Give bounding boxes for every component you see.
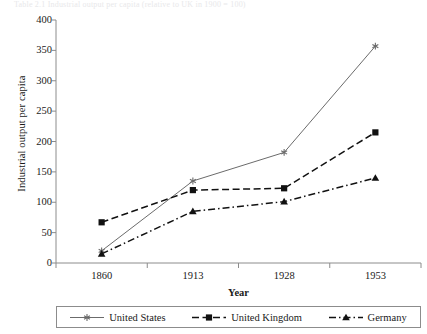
legend-label: Germany: [368, 312, 407, 323]
y-tick-label: 200: [8, 137, 52, 148]
chart-legend: United StatesUnited KingdomGermany: [56, 306, 421, 328]
y-tick-label: 150: [8, 167, 52, 178]
data-point-marker: [206, 314, 212, 320]
data-point-marker: [372, 174, 380, 181]
data-point-marker: [283, 151, 285, 153]
x-tick-label: 1953: [335, 270, 415, 281]
legend-key-triangle-icon: [329, 312, 363, 323]
series-1: [99, 43, 379, 255]
data-point-marker: [190, 187, 196, 193]
series-line: [102, 46, 376, 251]
plot-area: [0, 0, 427, 334]
y-tick-label: 50: [8, 228, 52, 239]
y-tick-label: 400: [8, 15, 52, 26]
y-tick-label: 300: [8, 76, 52, 87]
series-2: [99, 129, 379, 225]
legend-label: United Kingdom: [231, 312, 302, 323]
legend-item-germany[interactable]: Germany: [329, 312, 407, 323]
x-tick-label: 1928: [244, 270, 324, 281]
data-point-marker: [99, 219, 105, 225]
data-point-marker: [374, 45, 376, 47]
legend-item-united-kingdom[interactable]: United Kingdom: [192, 312, 302, 323]
legend-label: United States: [109, 312, 165, 323]
legend-key-star-icon: [70, 312, 104, 323]
chart-figure: Table 2.1 Industrial output per capita (…: [0, 0, 427, 334]
legend-key-square-icon: [192, 312, 226, 323]
series-line: [102, 132, 376, 222]
y-tick-label: 250: [8, 106, 52, 117]
x-tick-label: 1860: [62, 270, 142, 281]
legend-item-united-states[interactable]: United States: [70, 312, 165, 323]
x-axis-title: Year: [56, 287, 421, 298]
y-tick-label: 100: [8, 197, 52, 208]
data-point-marker: [192, 180, 194, 182]
figure-caption: Table 2.1 Industrial output per capita (…: [0, 0, 427, 10]
series-3: [98, 174, 379, 257]
data-point-marker: [372, 129, 378, 135]
y-tick-label: 0: [8, 258, 52, 269]
x-tick-label: 1913: [153, 270, 233, 281]
data-point-marker: [86, 316, 88, 318]
y-tick-label: 350: [8, 45, 52, 56]
y-axis-tick-labels: 050100150200250300350400: [4, 0, 52, 334]
data-point-marker: [281, 185, 287, 191]
